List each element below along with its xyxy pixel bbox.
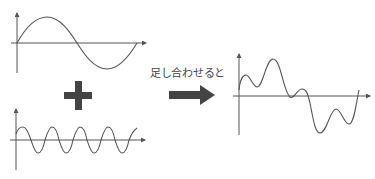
low-frequency-sine-graph bbox=[11, 13, 146, 73]
plus-icon bbox=[64, 81, 92, 110]
diagram-canvas bbox=[0, 0, 375, 179]
composite-wave-graph bbox=[233, 54, 370, 135]
caption-text: 足し合わせると bbox=[150, 64, 225, 80]
right-arrow-icon bbox=[169, 85, 215, 105]
high-frequency-sine-graph bbox=[10, 109, 145, 170]
